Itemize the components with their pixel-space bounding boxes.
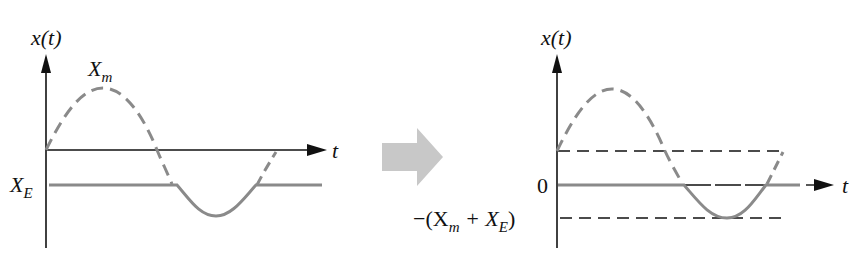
left-clipped-output	[49, 185, 322, 216]
left-input-sine-dashed-tail	[257, 152, 276, 185]
diagram-canvas: x(t) t Xm XE x(t) t 0	[0, 0, 860, 259]
left-y-axis-label: x(t)	[30, 25, 62, 50]
right-y-axis-label: x(t)	[540, 25, 572, 50]
saturation-label: XE	[9, 172, 33, 201]
right-input-sine-dashed	[557, 89, 682, 183]
left-t-axis-label: t	[332, 138, 339, 163]
right-t-axis-arrowhead-icon	[814, 179, 834, 191]
right-y-axis-arrowhead-icon	[552, 54, 562, 73]
right-panel: x(t) t 0 −(Xm + XE)	[413, 25, 849, 248]
right-t-axis-label: t	[842, 173, 849, 198]
right-arrow-icon	[382, 128, 443, 186]
left-panel: x(t) t Xm XE	[9, 25, 339, 248]
right-input-sine-dashed-tail	[767, 152, 783, 184]
left-input-sine-dashed	[46, 88, 172, 184]
right-shifted-output	[558, 185, 800, 218]
zero-label: 0	[537, 173, 548, 198]
lower-bound-label: −(Xm + XE)	[413, 206, 515, 235]
left-t-axis-arrowhead-icon	[307, 144, 327, 156]
amplitude-label: Xm	[87, 56, 112, 85]
left-y-axis-arrowhead-icon	[41, 54, 51, 73]
